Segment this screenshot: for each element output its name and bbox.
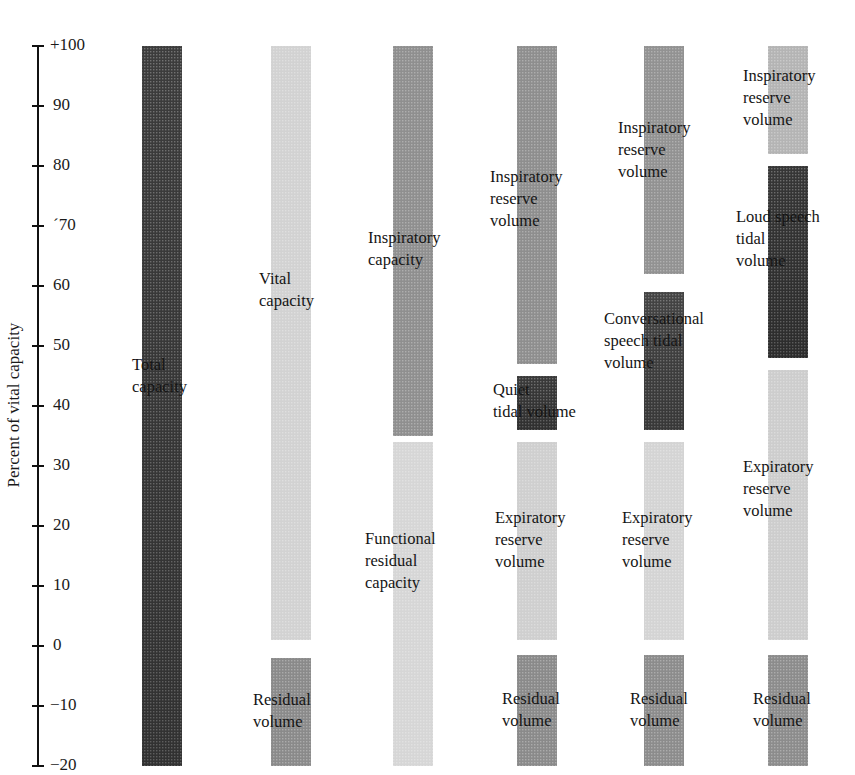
bar-segment-shading bbox=[142, 46, 182, 766]
y-tick-label: 40 bbox=[53, 396, 70, 414]
bars-group bbox=[142, 46, 808, 766]
label-residual-volume-4: Residual volume bbox=[502, 688, 560, 732]
y-tick-label: 80 bbox=[53, 156, 70, 174]
label-irv-6: Inspiratory reserve volume bbox=[743, 65, 815, 131]
column-inspiratory bbox=[393, 46, 433, 766]
y-tick-label: 10 bbox=[53, 576, 70, 594]
label-quiet-tidal-volume: Quiet tidal volume bbox=[493, 379, 576, 423]
y-tick-label: 20 bbox=[53, 516, 70, 534]
bar-segment-texture bbox=[271, 46, 311, 640]
column-loud bbox=[768, 46, 808, 766]
label-irv-5: Inspiratory reserve volume bbox=[618, 117, 690, 183]
label-inspiratory-capacity: Inspiratory capacity bbox=[368, 227, 440, 271]
label-total-capacity: Total capacity bbox=[132, 354, 187, 398]
label-functional-residual-capacity: Functional residual capacity bbox=[365, 528, 436, 594]
y-tick-label: 0 bbox=[53, 636, 62, 654]
y-axis-title: Percent of vital capacity bbox=[4, 305, 24, 505]
lung-volume-diagram bbox=[0, 0, 855, 775]
y-tick-label: 60 bbox=[53, 276, 70, 294]
label-erv-4: Expiratory reserve volume bbox=[495, 507, 566, 573]
y-tick-label: −10 bbox=[50, 696, 77, 714]
label-erv-6: Expiratory reserve volume bbox=[743, 456, 814, 522]
label-vital-capacity: Vital capacity bbox=[259, 268, 314, 312]
label-conversational-speech-tidal-volume: Conversational speech tidal volume bbox=[604, 308, 704, 374]
label-residual-volume-2: Residual volume bbox=[253, 689, 311, 733]
label-residual-volume-6: Residual volume bbox=[753, 688, 811, 732]
label-residual-volume-5: Residual volume bbox=[630, 688, 688, 732]
y-tick-label: ´70 bbox=[53, 216, 76, 234]
y-tick-label: 30 bbox=[53, 456, 70, 474]
column-vital bbox=[271, 46, 311, 766]
y-tick-label: 90 bbox=[53, 96, 70, 114]
y-tick-label: −20 bbox=[50, 756, 77, 774]
column-total bbox=[142, 46, 182, 766]
bar-segment-texture bbox=[393, 442, 433, 766]
y-tick-label: 50 bbox=[53, 336, 70, 354]
y-tick-label: +100 bbox=[50, 36, 85, 54]
label-erv-5: Expiratory reserve volume bbox=[622, 507, 693, 573]
label-irv-4: Inspiratory reserve volume bbox=[490, 166, 562, 232]
y-axis bbox=[32, 46, 44, 766]
label-loud-speech-tidal-volume: Loud speech tidal volume bbox=[736, 206, 820, 272]
